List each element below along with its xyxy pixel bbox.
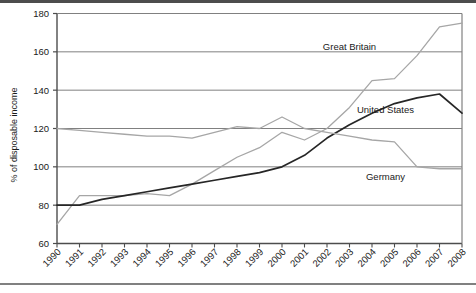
chart-figure: 1801601401201008060 19901991199219931994… (0, 0, 476, 293)
x-tick-label-1999: 1999 (243, 246, 266, 269)
y-tick-label-140: 140 (33, 85, 49, 96)
y-tick-label-160: 160 (33, 46, 49, 57)
x-tick-label-1994: 1994 (130, 246, 153, 269)
x-tick-label-1992: 1992 (85, 246, 108, 269)
x-tick-label-2005: 2005 (378, 246, 401, 269)
x-axis-ticks: 1990199119921993199419951996199719981999… (40, 244, 468, 269)
series-annotation-germany: Germany (366, 171, 405, 182)
x-tick-label-2001: 2001 (288, 246, 311, 269)
series-annotation-great-britain: Great Britain (323, 41, 376, 52)
x-tick-label-1991: 1991 (63, 246, 86, 269)
x-tick-label-2008: 2008 (445, 246, 468, 269)
x-tick-label-1993: 1993 (108, 246, 131, 269)
x-tick-label-1990: 1990 (40, 246, 63, 269)
x-tick-label-2006: 2006 (400, 246, 423, 269)
y-tick-label-80: 80 (38, 200, 49, 211)
y-tick-label-100: 100 (33, 161, 49, 172)
x-tick-label-1997: 1997 (198, 246, 221, 269)
x-tick-label-1998: 1998 (220, 246, 243, 269)
x-tick-label-1996: 1996 (175, 246, 198, 269)
y-axis-ticks: 1801601401201008060 (33, 8, 57, 249)
series-line-great-britain (57, 23, 462, 224)
y-tick-label-60: 60 (38, 238, 49, 249)
y-axis-title: % of disposable income (9, 87, 19, 182)
x-tick-label-2003: 2003 (333, 246, 356, 269)
x-tick-label-2002: 2002 (310, 246, 333, 269)
y-tick-label-180: 180 (33, 8, 49, 19)
x-tick-label-1995: 1995 (153, 246, 176, 269)
series-annotation-united-states: United States (357, 104, 414, 115)
y-axis-title-text: % of disposable income (9, 87, 19, 182)
y-tick-label-120: 120 (33, 123, 49, 134)
x-tick-label-2000: 2000 (265, 246, 288, 269)
series-annotations: Great BritainUnited StatesGermany (323, 41, 414, 182)
series-line-germany (57, 117, 462, 169)
data-series-lines (57, 23, 462, 224)
x-tick-label-2007: 2007 (423, 246, 446, 269)
x-tick-label-2004: 2004 (355, 246, 378, 269)
line-chart: 1801601401201008060 19901991199219931994… (0, 0, 476, 293)
